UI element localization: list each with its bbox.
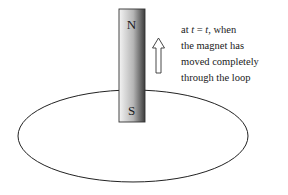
south-pole-label: S bbox=[128, 103, 135, 118]
north-pole-label: N bbox=[127, 17, 137, 32]
bar-magnet: N S bbox=[119, 9, 145, 122]
motion-arrow-up-icon bbox=[153, 38, 165, 73]
caption-line-2: the magnet has bbox=[181, 40, 244, 51]
magnet-loop-diagram: N S at t = t, when the magnet has moved … bbox=[0, 0, 288, 195]
caption: at t = t, when the magnet has moved comp… bbox=[181, 24, 260, 83]
caption-line-1: at t = t, when bbox=[181, 24, 237, 35]
wire-loop-front bbox=[18, 136, 248, 182]
caption-line-3: moved completely bbox=[181, 56, 260, 67]
caption-line-4: through the loop bbox=[181, 72, 250, 83]
